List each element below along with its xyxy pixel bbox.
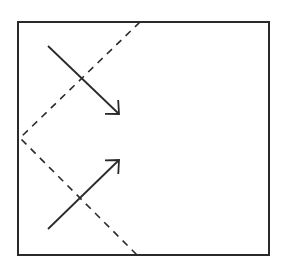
incoming-arrow xyxy=(48,46,119,114)
outgoing-arrow xyxy=(48,160,119,229)
dashed-reflection-path xyxy=(20,22,140,256)
frame-box xyxy=(18,22,269,255)
arrow-shaft xyxy=(48,46,119,114)
arrow-shaft xyxy=(48,160,119,229)
reflection-diagram xyxy=(0,0,293,274)
